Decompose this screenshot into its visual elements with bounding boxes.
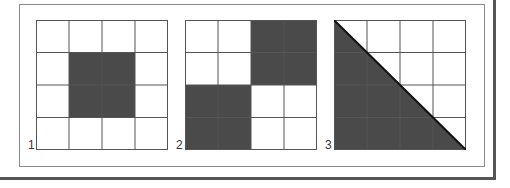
- figure-label-2: 2: [176, 139, 183, 151]
- grid-figure-3: [334, 20, 466, 150]
- figure-label-1: 1: [28, 139, 35, 151]
- grid-figure-2: [185, 20, 317, 150]
- figure-label-3: 3: [325, 139, 332, 151]
- grid-figure-1: [36, 20, 168, 150]
